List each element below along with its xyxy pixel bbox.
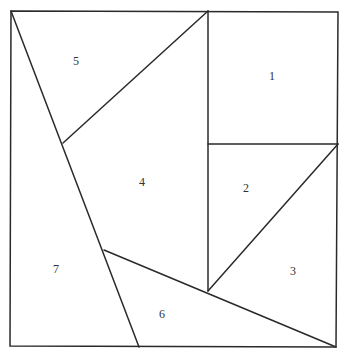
line-right-diagonal	[208, 144, 338, 291]
line-bottom-diagonal	[104, 250, 336, 347]
dividing-lines	[11, 11, 338, 347]
piece-label-4: 4	[139, 175, 145, 189]
piece-label-1: 1	[269, 69, 275, 83]
piece-label-5: 5	[73, 54, 79, 68]
tangram-diagram: 1 2 3 4 5 6 7	[0, 0, 345, 358]
outer-square	[10, 11, 338, 347]
piece-label-2: 2	[243, 181, 249, 195]
piece-label-3: 3	[290, 264, 296, 278]
line-piece5-diagonal	[63, 11, 208, 143]
piece-label-7: 7	[53, 262, 59, 276]
piece-labels: 1 2 3 4 5 6 7	[53, 54, 296, 321]
piece-label-6: 6	[159, 307, 165, 321]
